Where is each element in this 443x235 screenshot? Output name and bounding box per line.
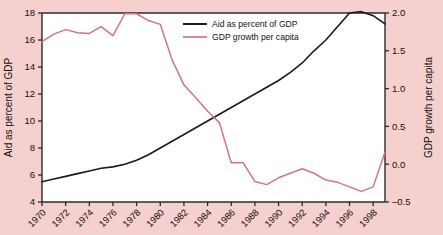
right-tick-label: 1.0 xyxy=(392,83,405,94)
left-tick-label: 12 xyxy=(24,88,35,99)
right-tick-label: –0.5 xyxy=(392,196,411,207)
left-tick-label: 6 xyxy=(30,169,35,180)
x-tick-label: 1994 xyxy=(310,207,332,229)
x-tick-label: 1990 xyxy=(263,207,285,229)
legend-label-1: Aid as percent of GDP xyxy=(212,19,298,29)
left-tick-label: 18 xyxy=(24,7,35,18)
left-tick-label: 16 xyxy=(24,34,35,45)
x-tick-label: 1988 xyxy=(239,207,261,229)
x-tick-label: 1974 xyxy=(74,207,96,229)
right-tick-label: 1.5 xyxy=(392,45,405,56)
left-tick-label: 10 xyxy=(24,115,35,126)
x-tick-label: 1980 xyxy=(144,207,166,229)
right-tick-label: 0.0 xyxy=(392,159,405,170)
x-tick-label: 1978 xyxy=(121,207,143,229)
x-tick-label: 1972 xyxy=(50,207,72,229)
chart-svg: 4681012141618–0.50.00.51.01.52.019701972… xyxy=(0,0,443,235)
left-tick-label: 8 xyxy=(30,142,35,153)
chart-figure: 4681012141618–0.50.00.51.01.52.019701972… xyxy=(0,0,443,235)
x-tick-label: 1998 xyxy=(357,207,379,229)
right-tick-label: 0.5 xyxy=(392,121,405,132)
left-axis-title: Aid as percent of GDP xyxy=(3,57,14,157)
x-tick-label: 1976 xyxy=(97,207,119,229)
left-tick-label: 4 xyxy=(30,196,35,207)
legend-label-2: GDP growth per capita xyxy=(212,32,299,42)
x-tick-label: 1992 xyxy=(286,207,308,229)
right-tick-label: 2.0 xyxy=(392,7,405,18)
x-tick-label: 1996 xyxy=(334,207,356,229)
left-tick-label: 14 xyxy=(24,61,35,72)
x-tick-label: 1982 xyxy=(168,207,190,229)
right-axis-title: GDP growth per capita xyxy=(423,57,434,158)
x-tick-label: 1970 xyxy=(26,207,48,229)
x-tick-label: 1986 xyxy=(215,207,237,229)
x-tick-label: 1984 xyxy=(192,207,214,229)
